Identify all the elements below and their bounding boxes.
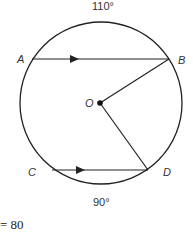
- label-o: O: [85, 97, 94, 109]
- arc-bottom-label: 90°: [93, 196, 110, 208]
- label-c: C: [28, 166, 36, 178]
- parallel-arrow-cd: [76, 166, 85, 174]
- center-point-o: [97, 100, 103, 106]
- footer-equation: = 80: [0, 217, 24, 232]
- arc-top-label: 110°: [92, 0, 114, 12]
- label-a: A: [16, 53, 24, 65]
- radius-od: [100, 103, 148, 170]
- label-d: D: [163, 166, 171, 178]
- parallel-arrow-ab: [70, 55, 79, 63]
- label-b: B: [178, 54, 185, 66]
- radius-ob: [100, 59, 169, 103]
- circle-diagram: 110° 90° A B O C D = 80: [0, 0, 193, 237]
